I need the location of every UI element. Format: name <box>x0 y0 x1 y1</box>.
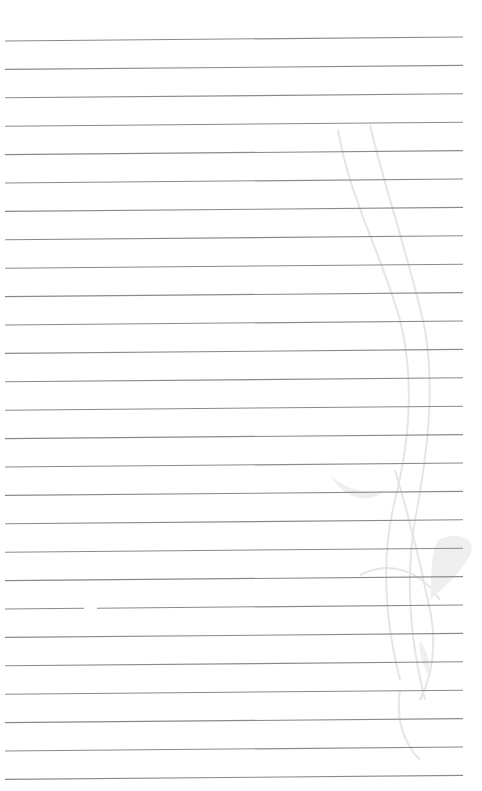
ruled-line <box>5 293 463 297</box>
ruled-line <box>5 406 463 410</box>
ruled-line <box>5 122 463 126</box>
ruled-line <box>5 349 463 353</box>
ruled-line <box>5 662 463 666</box>
ruled-line <box>97 605 463 608</box>
ruled-line <box>5 577 463 581</box>
ruled-line <box>5 151 463 155</box>
ruled-line <box>5 236 463 240</box>
ruled-line <box>5 690 463 694</box>
ruled-line <box>5 548 463 552</box>
ruled-line <box>5 321 463 325</box>
ruled-line <box>5 747 463 751</box>
lined-paper <box>0 0 482 791</box>
ruled-line <box>5 775 463 779</box>
ruled-line <box>5 608 84 609</box>
ruled-line <box>5 719 463 723</box>
ruled-line <box>5 65 463 69</box>
ruled-line <box>5 378 463 382</box>
ruled-line <box>5 207 463 211</box>
ruled-line <box>5 520 463 524</box>
ruled-line <box>5 435 463 439</box>
ruled-line <box>5 463 463 467</box>
ruled-line <box>5 264 463 268</box>
ruled-line <box>5 37 463 41</box>
ruled-line <box>5 94 463 98</box>
ruled-line <box>5 633 463 637</box>
ruled-lines <box>0 0 482 791</box>
ruled-line <box>5 179 463 183</box>
ruled-line <box>5 491 463 495</box>
